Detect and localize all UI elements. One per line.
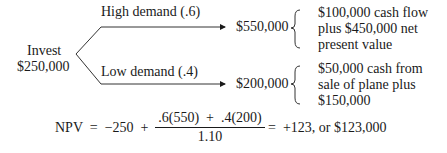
npv-equation: NPV = −250 + .6(550) + .4(200) 1.10 = +1…	[0, 110, 447, 150]
note-low: $50,000 cash from sale of plane plus $15…	[318, 61, 423, 109]
branch-label-low: Low demand (.4)	[101, 64, 198, 80]
note-high-line-3: present value	[318, 37, 428, 53]
equation-fraction: .6(550) + .4(200) 1.10	[155, 110, 265, 146]
equation-denominator: 1.10	[155, 128, 265, 146]
root-node-label-2: $250,000	[17, 59, 70, 75]
note-high-line-1: $100,000 cash flow	[318, 5, 428, 21]
note-high: $100,000 cash flow plus $450,000 net pre…	[318, 5, 428, 53]
note-low-line-2: sale of plane plus	[318, 77, 423, 93]
note-high-line-2: plus $450,000 net	[318, 21, 428, 37]
outcome-low: $200,000	[236, 76, 289, 92]
root-node-label-1: Invest	[27, 43, 61, 59]
outcome-high: $550,000	[236, 19, 289, 35]
equation-numerator: .6(550) + .4(200)	[155, 110, 265, 128]
note-low-line-3: $150,000	[318, 93, 423, 109]
equation-rhs: = +123, or $123,000	[268, 120, 386, 136]
equation-lhs: NPV = −250 +	[55, 120, 148, 136]
branch-label-high: High demand (.6)	[101, 4, 200, 20]
note-low-line-1: $50,000 cash from	[318, 61, 423, 77]
